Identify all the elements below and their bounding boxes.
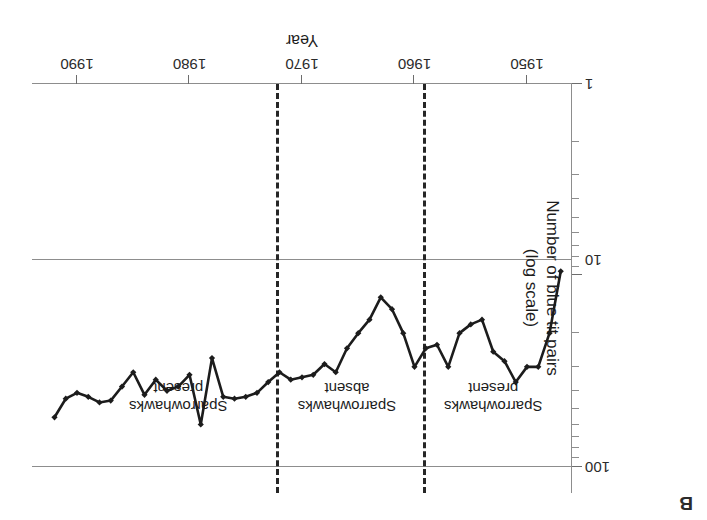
y-minor-tick bbox=[572, 245, 579, 246]
y-major-tick-100 bbox=[572, 466, 582, 467]
y-minor-tick bbox=[572, 390, 579, 391]
y-minor-tick bbox=[572, 266, 579, 267]
y-minor-tick bbox=[572, 436, 579, 437]
y-minor-tick bbox=[572, 332, 579, 333]
data-point-marker bbox=[231, 396, 237, 402]
y-minor-tick bbox=[572, 424, 579, 425]
y-minor-tick bbox=[572, 232, 579, 233]
x-tick-label-1970: 1970 bbox=[285, 56, 318, 73]
y-major-tick-10 bbox=[572, 275, 582, 276]
y-minor-tick bbox=[572, 141, 579, 142]
y-tick-label-10: 10 bbox=[585, 252, 602, 269]
y-tick-label-1: 1 bbox=[585, 76, 593, 93]
panel-label: B bbox=[679, 492, 693, 514]
y-minor-tick bbox=[572, 447, 579, 448]
y-minor-tick bbox=[572, 217, 579, 218]
series-line bbox=[55, 271, 561, 424]
y-minor-tick bbox=[572, 408, 579, 409]
data-point-marker bbox=[243, 394, 249, 400]
blue-tit-population-figure: B 100 10 1 Number of blue tit pairs (log… bbox=[0, 0, 707, 520]
y-major-tick-1 bbox=[572, 83, 582, 84]
y-minor-tick bbox=[572, 457, 579, 458]
y-minor-tick bbox=[572, 366, 579, 367]
data-point-marker bbox=[546, 330, 552, 336]
y-tick-label-100: 100 bbox=[585, 459, 610, 476]
data-point-marker bbox=[209, 355, 215, 361]
x-axis-title: Year bbox=[32, 31, 572, 49]
data-point-marker bbox=[299, 374, 305, 380]
plot-area: 100 10 1 Number of blue tit pairs (log s… bbox=[32, 83, 572, 493]
data-point-marker bbox=[220, 394, 226, 400]
x-tick-label-1950: 1950 bbox=[510, 56, 543, 73]
data-point-marker bbox=[535, 364, 541, 370]
x-tick-label-1960: 1960 bbox=[398, 56, 431, 73]
y-minor-tick bbox=[572, 174, 579, 175]
figure-rotation-wrapper: B 100 10 1 Number of blue tit pairs (log… bbox=[0, 0, 707, 520]
x-tick-label-1980: 1980 bbox=[173, 56, 206, 73]
y-minor-tick bbox=[572, 198, 579, 199]
data-point-marker bbox=[558, 268, 564, 274]
x-tick-label-1990: 1990 bbox=[60, 56, 93, 73]
data-point-marker bbox=[198, 421, 204, 427]
data-series-blue-tit-pairs bbox=[32, 83, 572, 493]
y-minor-tick bbox=[572, 256, 579, 257]
